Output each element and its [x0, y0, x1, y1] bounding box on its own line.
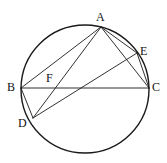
vertex-label-C: C	[152, 81, 160, 93]
segment-AE	[101, 27, 137, 53]
vertex-label-B: B	[7, 81, 15, 93]
segment-EC	[137, 53, 149, 88]
vertex-label-A: A	[96, 11, 105, 23]
segment-AB	[21, 27, 101, 88]
circumscribed-circle	[21, 25, 149, 153]
diagram-canvas	[0, 0, 167, 163]
chord-segments	[21, 27, 149, 118]
vertex-label-F: F	[46, 72, 53, 84]
vertex-label-D: D	[18, 117, 27, 129]
segment-DE	[33, 53, 137, 118]
vertex-label-E: E	[140, 45, 147, 57]
geometry-diagram: A B C D E F	[0, 0, 167, 163]
